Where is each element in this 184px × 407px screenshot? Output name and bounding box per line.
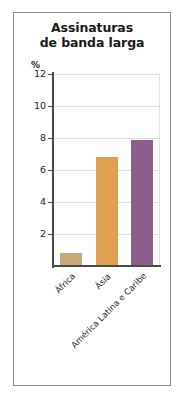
y-tick-label: 8 [24,133,46,143]
x-axis-line [52,265,161,267]
gridline [53,106,160,107]
y-tick-label: 4 [24,197,46,207]
y-tick-label: 10 [24,101,46,111]
y-tick-mark [48,106,53,107]
y-tick-mark [48,202,53,203]
y-tick-mark [48,138,53,139]
bar-3 [131,140,153,266]
y-tick-label: 6 [24,165,46,175]
y-tick-label: 2 [24,229,46,239]
bar-2 [96,157,118,266]
plot-area [53,74,160,266]
y-tick-label: 12 [24,69,46,79]
gridline [53,74,160,75]
y-tick-mark [48,74,53,75]
y-axis-ticks: 24681012 [22,0,46,407]
y-tick-mark [48,170,53,171]
y-tick-mark [48,234,53,235]
